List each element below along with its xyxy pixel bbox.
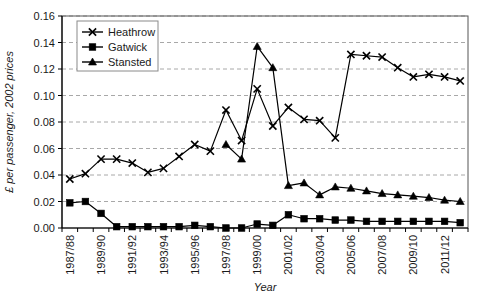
y-axis-title: £ per passenger, 2002 prices: [3, 51, 15, 194]
y-tick-label: 0.10: [34, 90, 55, 102]
x-tick-label: 1987/88: [64, 235, 76, 275]
marker-square: [379, 218, 386, 225]
legend-label: Gatwick: [108, 41, 148, 53]
y-axis-title-text: £ per passenger, 2002 prices: [3, 51, 15, 194]
marker-square: [82, 198, 89, 205]
marker-square: [160, 223, 167, 230]
y-tick-label: 0.00: [34, 222, 55, 234]
marker-square: [129, 223, 136, 230]
marker-square: [348, 217, 355, 224]
marker-square: [457, 219, 464, 226]
x-tick-label: 2009/10: [407, 235, 419, 275]
marker-square: [145, 223, 152, 230]
legend-label: Stansted: [108, 56, 151, 68]
y-tick-label: 0.02: [34, 196, 55, 208]
marker-square: [441, 218, 448, 225]
x-tick-label: 2001/02: [282, 235, 294, 275]
y-tick-label: 0.12: [34, 63, 55, 75]
chart-legend: HeathrowGatwickStansted: [77, 21, 158, 71]
marker-square: [301, 215, 308, 222]
x-tick-label: 1993/94: [158, 235, 170, 275]
x-tick-label: 2007/08: [376, 235, 388, 275]
marker-square: [207, 223, 214, 230]
x-tick-label: 1995/96: [189, 235, 201, 275]
y-tick-label: 0.16: [34, 10, 55, 22]
marker-square: [223, 225, 230, 232]
marker-square: [270, 222, 277, 229]
line-chart: 0.000.020.040.060.080.100.120.140.16 198…: [0, 0, 477, 297]
chart-container: 0.000.020.040.060.080.100.120.140.16 198…: [0, 0, 477, 297]
marker-square: [98, 210, 105, 217]
y-tick-label: 0.08: [34, 116, 55, 128]
x-tick-label: 2005/06: [345, 235, 357, 275]
x-tick-label: 1989/90: [95, 235, 107, 275]
marker-square: [89, 44, 96, 51]
marker-square: [410, 218, 417, 225]
marker-square: [113, 223, 120, 230]
y-tick-label: 0.06: [34, 143, 55, 155]
marker-square: [67, 200, 74, 207]
x-tick-label: 1999/00: [251, 235, 263, 275]
marker-square: [316, 215, 323, 222]
legend-label: Heathrow: [108, 26, 155, 38]
x-tick-label: 2003/04: [314, 235, 326, 275]
marker-square: [238, 225, 245, 232]
y-tick-label: 0.14: [34, 37, 55, 49]
marker-square: [394, 218, 401, 225]
x-tick-label: 2011/12: [439, 235, 451, 274]
x-axis-title: Year: [254, 281, 278, 293]
marker-square: [285, 211, 292, 218]
x-tick-label: 1997/98: [220, 235, 232, 275]
marker-square: [332, 217, 339, 224]
y-tick-label: 0.04: [34, 169, 55, 181]
marker-square: [254, 221, 261, 228]
marker-square: [426, 218, 433, 225]
marker-square: [191, 222, 198, 229]
marker-square: [363, 218, 370, 225]
x-axis-title-text: Year: [254, 281, 278, 293]
x-tick-label: 1991/92: [126, 235, 138, 275]
marker-square: [176, 223, 183, 230]
